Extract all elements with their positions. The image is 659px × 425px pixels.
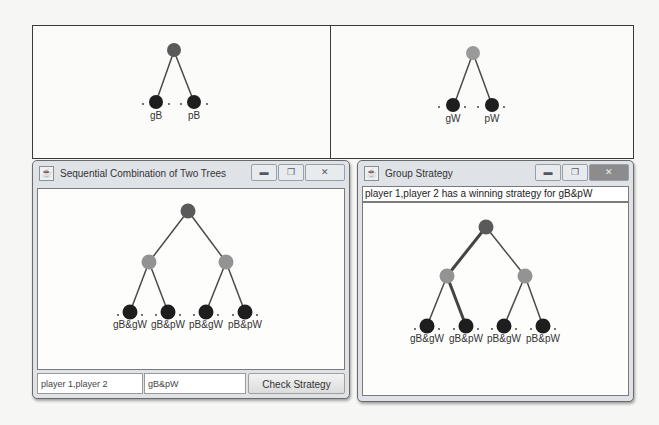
dot-marker — [464, 106, 466, 108]
sequential-combination-window: ☕ Sequential Combination of Two Trees ▬ … — [32, 160, 350, 399]
tree-node-leaf[interactable] — [161, 305, 176, 320]
strategy-tree-canvas: gB&gW gB&pW pB&gW pB&pW — [362, 202, 629, 396]
tree-edge — [130, 262, 149, 312]
leaf-label: pB&gW — [189, 319, 223, 330]
tree-white: gW pW — [331, 26, 633, 158]
leaf-label: pB&pW — [526, 333, 560, 344]
players-input[interactable] — [37, 373, 143, 394]
tree-edge — [525, 276, 543, 326]
tree-edge — [226, 262, 245, 312]
tree-edge — [156, 51, 174, 102]
dot-marker — [206, 103, 208, 105]
strategy-result-text: player 1,player 2 has a winning strategy… — [362, 186, 629, 202]
group-strategy-window: ☕ Group Strategy ▬ ❐ ✕ player 1,player 2… — [357, 160, 634, 402]
tree-node-leaf[interactable] — [459, 319, 474, 334]
tree-node-leaf[interactable] — [485, 98, 499, 112]
strategy-input[interactable] — [144, 373, 246, 394]
dot-marker — [477, 106, 479, 108]
tree-node-root[interactable] — [167, 43, 181, 57]
tree-edge — [174, 51, 194, 102]
close-icon: ✕ — [605, 167, 613, 177]
tree-edge — [149, 211, 188, 262]
close-icon: ✕ — [321, 167, 329, 177]
tree-edge — [454, 53, 473, 105]
leaf-label: gB — [150, 110, 163, 121]
control-bar: Check Strategy — [37, 373, 345, 394]
tree-node-leaf[interactable] — [199, 305, 214, 320]
tree-canvas: gB&gW gB&pW pB&gW pB&pW — [37, 188, 345, 370]
maximize-button[interactable]: ❐ — [562, 164, 588, 181]
dot-marker — [142, 103, 144, 105]
maximize-icon: ❐ — [571, 167, 579, 177]
tree-node-leaf[interactable] — [536, 319, 551, 334]
maximize-button[interactable]: ❐ — [278, 164, 304, 181]
minimize-button[interactable]: ▬ — [535, 164, 561, 181]
tree-node-mid[interactable] — [440, 269, 455, 284]
tree-edge — [504, 276, 525, 326]
leaf-label: pB&pW — [228, 319, 262, 330]
tree-node-mid[interactable] — [219, 255, 234, 270]
check-strategy-button[interactable]: Check Strategy — [248, 373, 345, 394]
title-bar[interactable]: ☕ Sequential Combination of Two Trees ▬ … — [33, 161, 349, 185]
close-button[interactable]: ✕ — [305, 164, 345, 181]
combined-tree: gB&gW gB&pW pB&gW pB&pW — [38, 189, 344, 369]
close-button[interactable]: ✕ — [589, 164, 629, 181]
dot-marker — [168, 103, 170, 105]
tree-node-root[interactable] — [466, 46, 480, 60]
strategy-tree: gB&gW gB&pW pB&gW pB&pW — [363, 203, 628, 395]
leaf-label: gB&gW — [410, 333, 444, 344]
leaf-label: pB&gW — [487, 333, 521, 344]
window-title: Sequential Combination of Two Trees — [60, 168, 226, 179]
tree-node-leaf[interactable] — [149, 95, 163, 109]
tree-node-root[interactable] — [479, 220, 494, 235]
tree-edge — [188, 211, 226, 262]
tree-node-leaf[interactable] — [238, 305, 253, 320]
minimize-icon: ▬ — [260, 167, 269, 177]
tree-node-leaf[interactable] — [187, 95, 201, 109]
tree-panel-white: gW pW — [330, 25, 634, 159]
tree-node-leaf[interactable] — [123, 305, 138, 320]
dot-markers — [414, 328, 556, 330]
tree-node-mid[interactable] — [142, 255, 157, 270]
leaf-label: gB&gW — [113, 319, 147, 330]
tree-edge — [473, 53, 492, 105]
tree-edge — [427, 276, 447, 326]
title-bar[interactable]: ☕ Group Strategy ▬ ❐ ✕ — [358, 161, 633, 185]
java-cup-icon: ☕ — [39, 166, 54, 181]
tree-node-leaf[interactable] — [497, 319, 512, 334]
tree-edge — [486, 227, 525, 276]
tree-node-leaf[interactable] — [446, 98, 460, 112]
dot-markers — [117, 314, 258, 316]
tree-edge-highlighted — [447, 227, 486, 276]
window-title: Group Strategy — [385, 168, 453, 179]
dot-marker — [180, 103, 182, 105]
dot-marker — [438, 106, 440, 108]
dot-marker — [503, 106, 505, 108]
tree-node-root[interactable] — [181, 204, 196, 219]
minimize-button[interactable]: ▬ — [251, 164, 277, 181]
minimize-icon: ▬ — [544, 167, 553, 177]
leaf-label: pW — [485, 113, 501, 124]
java-cup-icon: ☕ — [364, 166, 379, 181]
leaf-label: gW — [446, 113, 462, 124]
tree-edge — [206, 262, 226, 312]
leaf-label: pB — [188, 110, 201, 121]
maximize-icon: ❐ — [287, 167, 295, 177]
tree-edge-highlighted — [447, 276, 466, 326]
tree-node-leaf[interactable] — [420, 319, 435, 334]
leaf-label: gB&pW — [449, 333, 483, 344]
tree-edge — [149, 262, 168, 312]
tree-panel-black: gB pB — [32, 25, 332, 159]
leaf-label: gB&pW — [151, 319, 185, 330]
tree-black: gB pB — [33, 26, 331, 158]
tree-node-mid[interactable] — [518, 269, 533, 284]
